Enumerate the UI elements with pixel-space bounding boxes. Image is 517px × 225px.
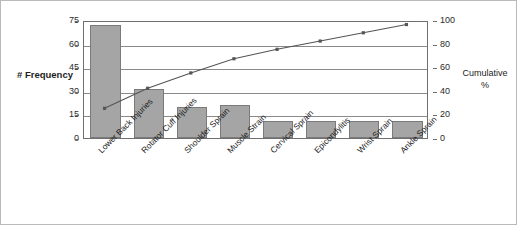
right-axis-title-line2: %	[456, 79, 514, 91]
left-tick-mark-45	[75, 68, 79, 69]
gridline-45	[84, 69, 427, 70]
left-tick-mark-60	[75, 45, 79, 46]
left-tick-mark-15	[75, 115, 79, 116]
right-axis-ticks: 100806040200	[433, 1, 459, 225]
right-axis-title: Cumulative %	[456, 67, 514, 91]
right-tick-label-100: 100	[440, 16, 455, 25]
pareto-chart-image: # Frequency Cumulative % 75604530150 100…	[0, 0, 517, 225]
right-tick-label-20: 20	[440, 110, 450, 119]
right-tick-mark-80	[433, 45, 437, 46]
left-tick-mark-75	[75, 21, 79, 22]
left-axis-ticks: 75604530150	[55, 1, 79, 225]
left-tick-mark-0	[75, 139, 79, 140]
right-tick-label-80: 80	[440, 40, 450, 49]
right-tick-mark-100	[433, 21, 437, 22]
right-axis-title-line1: Cumulative	[456, 67, 514, 79]
right-tick-label-60: 60	[440, 63, 450, 72]
right-tick-label-40: 40	[440, 87, 450, 96]
category-axis-labels: Lower Back InjuriesRotator Cuff Injuries…	[83, 140, 428, 225]
right-tick-mark-60	[433, 68, 437, 69]
right-tick-label-0: 0	[440, 134, 445, 143]
gridline-60	[84, 46, 427, 47]
right-tick-mark-40	[433, 92, 437, 93]
right-tick-mark-0	[433, 139, 437, 140]
left-tick-mark-30	[75, 92, 79, 93]
bar-1	[90, 25, 120, 138]
